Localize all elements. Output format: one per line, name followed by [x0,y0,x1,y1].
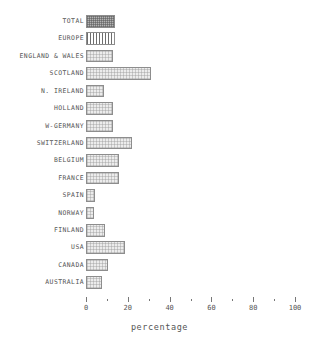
bar-canada [86,259,108,272]
bar-label-switzerland: SWITZERLAND [37,139,84,148]
bar-finland [86,224,105,237]
plot-area: TOTALEUROPEENGLAND & WALESSCOTLANDN. IRE… [0,0,319,300]
bar-row: AUSTRALIA [0,276,319,293]
bar-holland [86,102,113,115]
bar-row: USA [0,241,319,258]
bar-label-finland: FINLAND [54,226,84,235]
bar-row: BELGIUM [0,154,319,171]
bar-row: SWITZERLAND [0,137,319,154]
x-axis-tick-label: 100 [289,304,302,312]
bar-label-n-ireland: N. IRELAND [41,87,84,96]
bar-spain [86,189,95,202]
x-axis-minor-tick [107,299,108,302]
bar-australia [86,276,102,289]
bar-norway [86,207,94,220]
bar-belgium [86,154,119,167]
bar-label-norway: NORWAY [58,209,84,218]
bar-label-scotland: SCOTLAND [50,69,84,78]
bar-label-australia: AUSTRALIA [45,278,84,287]
bar-label-spain: SPAIN [63,191,85,200]
bar-label-belgium: BELGIUM [54,156,84,165]
bar-row: ENGLAND & WALES [0,50,319,67]
x-axis-minor-tick [191,299,192,302]
bar-n-ireland [86,85,104,98]
bar-row: SPAIN [0,189,319,206]
x-axis-tick-label: 40 [165,304,173,312]
x-axis-tick-label: 60 [207,304,215,312]
bar-europe [86,32,115,45]
x-axis-tick-label: 0 [84,304,88,312]
bar-row: N. IRELAND [0,85,319,102]
bar-switzerland [86,137,132,150]
x-axis-tick-label: 20 [124,304,132,312]
bar-usa [86,241,125,254]
bar-row: CANADA [0,259,319,276]
bar-label-england-wales: ENGLAND & WALES [20,52,84,61]
bar-label-w-germany: W-GERMANY [45,122,84,131]
bar-label-france: FRANCE [58,174,84,183]
x-axis-minor-tick [232,299,233,302]
bar-row: NORWAY [0,207,319,224]
bar-row: SCOTLAND [0,67,319,84]
bar-label-holland: HOLLAND [54,104,84,113]
x-axis-major-tick [170,297,171,302]
bar-w-germany [86,120,113,133]
x-axis-minor-tick [149,299,150,302]
x-axis-major-tick [86,297,87,302]
x-axis-major-tick [253,297,254,302]
bar-row: FINLAND [0,224,319,241]
bar-row: HOLLAND [0,102,319,119]
x-axis-title: percentage [0,322,319,332]
x-axis: 020406080100 [0,297,319,317]
bar-total [86,15,115,28]
x-axis-major-tick [295,297,296,302]
bar-label-europe: EUROPE [58,34,84,43]
bar-scotland [86,67,151,80]
bar-label-usa: USA [71,243,84,252]
bar-england-wales [86,50,113,63]
bar-row: FRANCE [0,172,319,189]
bar-chart: TOTALEUROPEENGLAND & WALESSCOTLANDN. IRE… [0,0,319,346]
bar-france [86,172,119,185]
bar-label-canada: CANADA [58,261,84,270]
x-axis-major-tick [128,297,129,302]
x-axis-major-tick [211,297,212,302]
bar-row: W-GERMANY [0,120,319,137]
bar-row: EUROPE [0,32,319,49]
x-axis-tick-label: 80 [249,304,257,312]
bar-label-total: TOTAL [63,17,85,26]
x-axis-minor-tick [274,299,275,302]
bar-row: TOTAL [0,15,319,32]
